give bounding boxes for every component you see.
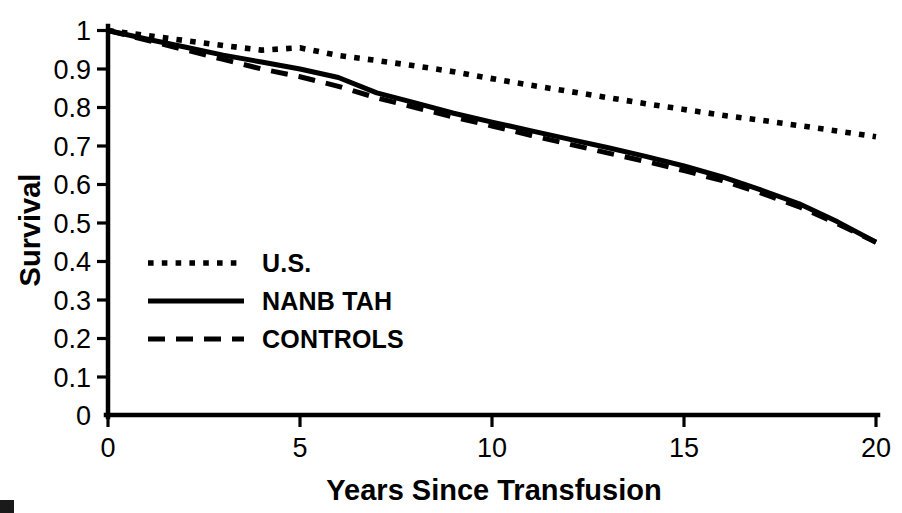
legend-label: U.S. (262, 249, 311, 277)
y-axis-tick-label: 0.4 (53, 247, 91, 277)
x-axis-tick-label: 0 (100, 433, 115, 463)
x-axis-tick-label: 10 (477, 433, 507, 463)
y-axis-tick-label: 0.6 (53, 170, 91, 200)
y-axis-tick-label: 0.2 (53, 324, 91, 354)
x-axis-title: Years Since Transfusion (326, 474, 661, 506)
legend-label: CONTROLS (262, 325, 404, 353)
y-axis-title: Survival (14, 174, 46, 287)
series-group (108, 31, 876, 243)
y-axis-tick-label: 0 (76, 401, 91, 431)
y-axis-tick-label: 0.8 (53, 93, 91, 123)
y-axis-tick-group: 00.10.20.30.40.50.60.70.80.91 (53, 16, 108, 431)
y-axis-tick-label: 0.1 (53, 363, 91, 393)
survival-chart-figure: 00.10.20.30.40.50.60.70.80.91 05101520 U… (0, 0, 902, 513)
x-axis-tick-label: 20 (861, 433, 891, 463)
x-axis-tick-label: 15 (669, 433, 699, 463)
series-line-controls (108, 31, 876, 243)
legend-label: NANB TAH (262, 287, 392, 315)
chart-canvas: 00.10.20.30.40.50.60.70.80.91 05101520 U… (0, 0, 902, 513)
chart-legend: U.S.NANB TAHCONTROLS (148, 249, 404, 353)
x-axis-tick-group: 05101520 (100, 415, 891, 463)
y-axis-tick-label: 0.9 (53, 55, 91, 85)
y-axis-tick-label: 0.7 (53, 132, 91, 162)
series-line-nanb-tah (108, 31, 876, 243)
y-axis-tick-label: 1 (76, 16, 91, 46)
y-axis-tick-label: 0.5 (53, 209, 91, 239)
y-axis-tick-label: 0.3 (53, 286, 91, 316)
x-axis-tick-label: 5 (292, 433, 307, 463)
scan-artifact (0, 500, 14, 513)
